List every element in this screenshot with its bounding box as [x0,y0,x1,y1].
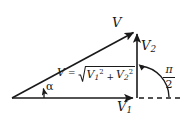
term1-exponent: 2 [99,68,103,76]
vertical-component-base: V [141,38,150,53]
right-angle-fraction: π 2 [163,64,175,90]
formula-equals: = [68,68,76,78]
diagram-canvas [0,0,182,118]
formula-plus: + [107,72,115,82]
fraction-denominator: 2 [163,78,175,91]
fraction-numerator: π [163,64,175,77]
horizontal-component-label: V1 [117,100,132,115]
resultant-magnitude-formula: V = V12+V22 [57,66,135,82]
radical-group: V12+V22 [78,66,136,82]
vertical-component-subscript: 2 [150,44,156,54]
radical-sign-icon [78,66,86,82]
term2-exponent: 2 [129,68,133,76]
alpha-angle-arc [43,89,44,99]
alpha-angle-label: α [46,81,53,92]
vertical-component-label: V2 [141,39,156,54]
horizontal-component-base: V [117,99,126,114]
formula-lhs: V [57,66,65,79]
resultant-label: V [112,16,121,29]
vector-triangle-figure: V V2 V1 α V = V12+V22 π 2 [0,0,182,118]
right-angle-arc-arrowhead [139,64,146,70]
term2-base: V [116,68,124,81]
horizontal-component-subscript: 1 [126,105,132,115]
radicand: V12+V22 [86,66,136,82]
